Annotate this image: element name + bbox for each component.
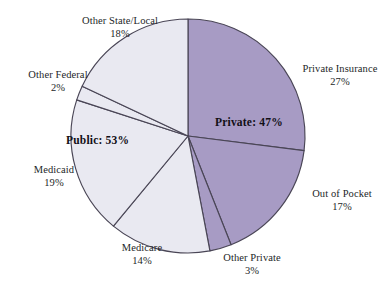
pie-chart-figure: Other State/Local 18% Other Federal 2% M… [0,0,387,288]
group-label-private: Private: 47% [215,116,283,128]
slice-label-category: Other Federal [6,68,110,81]
slice-label-category: Medicare [92,241,192,254]
slice-label-out-of-pocket: Out of Pocket 17% [298,187,386,214]
pie-slice-private-insurance [188,19,305,151]
slice-label-medicaid: Medicaid 19% [6,163,102,190]
slice-label-value: 17% [298,200,386,213]
pie-chart-canvas [0,0,387,288]
slice-label-value: 18% [58,27,182,40]
slice-label-other-private: Other Private 3% [200,251,304,278]
slice-label-value: 19% [6,176,102,189]
group-label-public: Public: 53% [66,134,129,146]
slice-label-category: Other Private [200,251,304,264]
slice-label-private-insurance: Private Insurance 27% [292,62,387,89]
slice-label-other-state-local: Other State/Local 18% [58,14,182,41]
slice-label-value: 2% [6,81,110,94]
slice-label-value: 14% [92,254,192,267]
slice-label-category: Other State/Local [58,14,182,27]
slice-label-category: Medicaid [6,163,102,176]
slice-label-medicare: Medicare 14% [92,241,192,268]
slice-label-category: Out of Pocket [298,187,386,200]
slice-label-value: 3% [200,264,304,277]
slice-label-other-federal: Other Federal 2% [6,68,110,95]
slice-label-value: 27% [292,75,387,88]
slice-label-category: Private Insurance [292,62,387,75]
